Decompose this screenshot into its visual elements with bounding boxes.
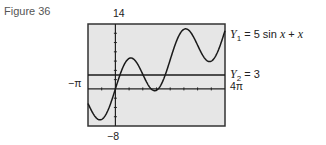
y2-equation: Y2 = 3 [230,67,260,83]
y1-equation: Y1 = 5 sin x + x [230,27,303,43]
calculator-screen [0,0,326,145]
